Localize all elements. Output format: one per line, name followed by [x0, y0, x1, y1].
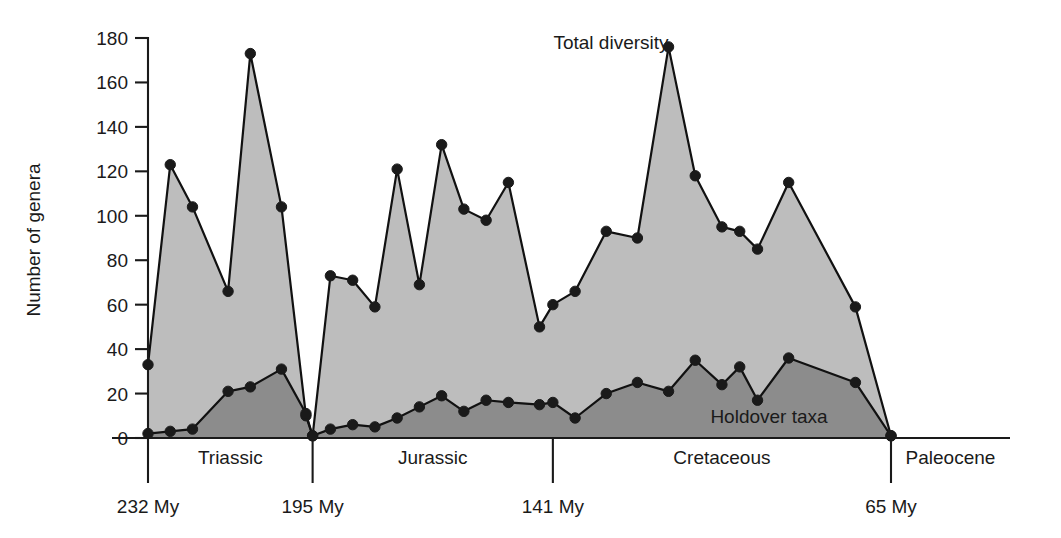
data-point [481, 215, 491, 225]
data-point [850, 302, 860, 312]
y-axis-tick-label: 120 [96, 161, 128, 182]
y-axis-tick-label: 80 [107, 250, 128, 271]
data-point [414, 279, 424, 289]
y-axis-tick-label: 100 [96, 206, 128, 227]
data-point [325, 271, 335, 281]
data-point [548, 397, 558, 407]
data-point [783, 177, 793, 187]
data-point [307, 431, 317, 441]
chart-container: 020406080100120140160180232 My195 My141 … [0, 0, 1061, 538]
annotation-total-diversity: Total diversity [553, 32, 669, 53]
data-point [245, 48, 255, 58]
y-axis-tick-label: 60 [107, 295, 128, 316]
data-point [632, 233, 642, 243]
y-axis-tick-label: 0 [117, 428, 128, 449]
x-axis-age-label: 195 My [281, 496, 344, 517]
data-point [276, 364, 286, 374]
y-axis-tick-label: 20 [107, 384, 128, 405]
data-point [187, 202, 197, 212]
data-point [223, 286, 233, 296]
x-axis-age-label: 65 My [865, 496, 917, 517]
x-axis-age-label: 141 My [522, 496, 585, 517]
data-point [436, 139, 446, 149]
data-point [752, 244, 762, 254]
data-point [663, 386, 673, 396]
data-point [459, 204, 469, 214]
data-point [570, 286, 580, 296]
data-point [370, 422, 380, 432]
data-point [735, 226, 745, 236]
data-point [717, 222, 727, 232]
data-point [392, 164, 402, 174]
data-point [481, 395, 491, 405]
data-point [187, 424, 197, 434]
data-point [632, 377, 642, 387]
data-point [276, 202, 286, 212]
data-point [459, 406, 469, 416]
data-point [436, 391, 446, 401]
data-point [690, 171, 700, 181]
data-point [548, 299, 558, 309]
period-label-triassic: Triassic [198, 447, 263, 468]
data-point [165, 159, 175, 169]
y-axis-tick-label: 40 [107, 339, 128, 360]
data-point [534, 322, 544, 332]
data-point [414, 402, 424, 412]
data-point [601, 388, 611, 398]
data-point [347, 419, 357, 429]
data-point [503, 177, 513, 187]
data-point [570, 413, 580, 423]
data-point [717, 379, 727, 389]
data-point [503, 397, 513, 407]
y-axis-tick-label: 180 [96, 28, 128, 49]
data-point [301, 408, 311, 418]
period-label-cretaceous: Cretaceous [673, 447, 770, 468]
period-label-jurassic: Jurassic [398, 447, 468, 468]
area-fill-layer [148, 47, 891, 438]
data-point [143, 428, 153, 438]
data-point [735, 362, 745, 372]
x-axis-age-label: 232 My [117, 496, 180, 517]
data-point [143, 359, 153, 369]
data-point [347, 275, 357, 285]
data-point [165, 426, 175, 436]
data-point [325, 424, 335, 434]
data-point [752, 395, 762, 405]
y-axis-tick-label: 140 [96, 117, 128, 138]
y-axis-title: Number of genera [23, 163, 44, 317]
data-point [534, 399, 544, 409]
diversity-area-chart: 020406080100120140160180232 My195 My141 … [0, 0, 1061, 538]
annotation-holdover-taxa: Holdover taxa [710, 406, 828, 427]
data-point [783, 353, 793, 363]
data-point [690, 355, 700, 365]
data-point [850, 377, 860, 387]
data-point [392, 413, 402, 423]
data-point [223, 386, 233, 396]
period-label-paleocene: Paleocene [906, 447, 996, 468]
y-axis-tick-label: 160 [96, 72, 128, 93]
data-point [245, 382, 255, 392]
data-point [370, 302, 380, 312]
data-point [601, 226, 611, 236]
data-point [886, 431, 896, 441]
